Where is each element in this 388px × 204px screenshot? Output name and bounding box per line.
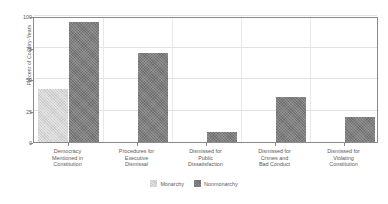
- x-category-label-3: Dismissed forCrimes andBad Conduct: [240, 148, 309, 168]
- bar-nonmonarchy-2: [207, 132, 237, 142]
- y-tick-label: 100: [0, 14, 32, 20]
- x-tick-mark: [344, 143, 345, 146]
- x-category-label-2: Dismissed forPublicDissatisfaction: [171, 148, 240, 168]
- legend-swatch-icon: [150, 180, 157, 187]
- x-tick-mark: [206, 143, 207, 146]
- y-tick-label: 25: [0, 109, 32, 115]
- x-category-label-line: Dissatisfaction: [171, 161, 240, 168]
- x-category-label-line: Democracy: [33, 148, 102, 155]
- x-category-label-0: DemocracyMentioned inConstitution: [33, 148, 102, 168]
- x-category-label-line: Constitution: [309, 161, 378, 168]
- x-category-label-line: Constitution: [33, 161, 102, 168]
- x-gridline: [310, 18, 311, 142]
- x-category-label-line: Dismissed for: [309, 148, 378, 155]
- bar-nonmonarchy-1: [138, 53, 168, 142]
- y-tick-label: 0: [0, 140, 32, 146]
- legend-swatch-icon: [194, 180, 201, 187]
- plot-area: [33, 17, 378, 143]
- y-tick-mark: [30, 143, 33, 144]
- x-category-label-line: Bad Conduct: [240, 161, 309, 168]
- x-category-label-line: Dismissed for: [240, 148, 309, 155]
- legend-label: Nonmonarchy: [204, 181, 238, 187]
- plot-inner: [34, 18, 377, 142]
- y-tick-label: 75: [0, 46, 32, 52]
- x-category-label-line: Procedures for: [102, 148, 171, 155]
- x-category-label-line: Executive: [102, 155, 171, 162]
- legend-item-monarchy[interactable]: Monarchy: [150, 180, 184, 187]
- y-gridline: [34, 15, 377, 16]
- x-category-label-line: Dismissal: [102, 161, 171, 168]
- x-gridline: [103, 18, 104, 142]
- x-tick-mark: [137, 143, 138, 146]
- bar-nonmonarchy-0: [69, 22, 99, 142]
- y-tick-label: 50: [0, 77, 32, 83]
- x-gridline: [241, 18, 242, 142]
- x-category-label-4: Dismissed forViolatingConstitution: [309, 148, 378, 168]
- bar-nonmonarchy-3: [276, 97, 306, 142]
- legend-item-nonmonarchy[interactable]: Nonmonarchy: [194, 180, 238, 187]
- x-tick-mark: [275, 143, 276, 146]
- x-category-label-line: Crimes and: [240, 155, 309, 162]
- x-tick-mark: [68, 143, 69, 146]
- x-gridline: [172, 18, 173, 142]
- bar-nonmonarchy-4: [345, 117, 375, 142]
- bar-chart: Percent of Country-Years 0255075100 Demo…: [0, 0, 388, 204]
- legend-label: Monarchy: [160, 181, 184, 187]
- x-category-label-line: Violating: [309, 155, 378, 162]
- x-category-label-line: Public: [171, 155, 240, 162]
- bar-monarchy-0: [38, 89, 68, 142]
- chart-legend: MonarchyNonmonarchy: [0, 180, 388, 187]
- x-category-label-line: Mentioned in: [33, 155, 102, 162]
- x-category-label-1: Procedures forExecutiveDismissal: [102, 148, 171, 168]
- x-category-label-line: Dismissed for: [171, 148, 240, 155]
